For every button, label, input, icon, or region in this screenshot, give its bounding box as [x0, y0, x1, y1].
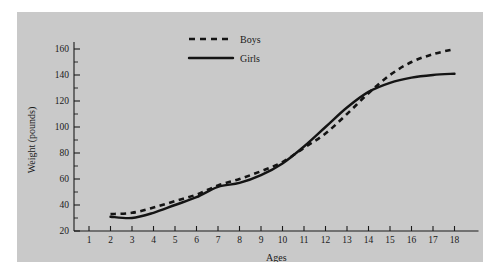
y-tick-label: 160	[55, 44, 70, 54]
x-tick-label: 17	[428, 235, 438, 245]
x-tick-label: 1	[87, 235, 92, 245]
x-tick-label: 5	[173, 235, 178, 245]
y-tick-label: 120	[55, 96, 70, 106]
y-axis: 20406080100120140160	[55, 42, 80, 236]
legend-label-boys: Boys	[240, 34, 261, 45]
y-tick-label: 80	[60, 148, 70, 158]
x-tick-label: 13	[342, 235, 352, 245]
x-tick-label: 16	[407, 235, 417, 245]
series-line-girls	[111, 74, 455, 218]
chart-screenshot: 20406080100120140160 1234567891011121314…	[0, 0, 498, 277]
x-tick-label: 9	[259, 235, 264, 245]
y-tick-label: 140	[55, 70, 70, 80]
x-tick-label: 4	[151, 235, 156, 245]
x-tick-label: 14	[364, 235, 374, 245]
chart-legend: BoysGirls	[189, 34, 261, 64]
x-tick-label: 10	[278, 235, 288, 245]
x-tick-label: 3	[130, 235, 135, 245]
data-series-group	[111, 49, 455, 218]
chart-panel: 20406080100120140160 1234567891011121314…	[17, 12, 483, 262]
legend-label-girls: Girls	[240, 53, 260, 64]
x-tick-label: 11	[299, 235, 308, 245]
y-axis-title: Weight (pounds)	[26, 107, 38, 174]
x-tick-label: 8	[237, 235, 242, 245]
x-tick-label: 18	[450, 235, 460, 245]
x-tick-label: 2	[108, 235, 113, 245]
x-tick-label: 7	[216, 235, 221, 245]
x-axis-title: Ages	[266, 252, 287, 262]
y-tick-label: 20	[60, 226, 70, 236]
x-tick-label: 12	[321, 235, 331, 245]
y-tick-label: 40	[60, 200, 70, 210]
series-line-boys	[111, 49, 455, 214]
x-tick-label: 6	[194, 235, 199, 245]
x-tick-label: 15	[385, 235, 395, 245]
weight-by-age-line-chart: 20406080100120140160 1234567891011121314…	[17, 12, 483, 262]
x-axis: 123456789101112131415161718	[74, 226, 479, 245]
y-tick-label: 60	[60, 174, 70, 184]
y-tick-label: 100	[55, 122, 70, 132]
